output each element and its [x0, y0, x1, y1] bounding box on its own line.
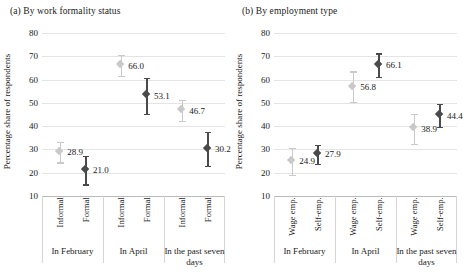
data-label: 21.0 — [93, 165, 109, 175]
panel-a-title: (a) By work formality status — [10, 6, 120, 16]
data-label: 27.9 — [325, 149, 341, 159]
marker-diamond — [373, 60, 382, 69]
error-bar-cap-upper — [57, 142, 64, 143]
marker-diamond — [409, 123, 418, 132]
error-bar-cap-upper — [179, 100, 186, 101]
group-label-1: In April — [103, 246, 164, 257]
y-tick-label-20: 20 — [29, 168, 38, 178]
error-bar-cap-upper — [437, 104, 444, 105]
y-tick-label-30: 30 — [261, 144, 270, 154]
panel-a-y-axis-label: Percentage share of respondents — [2, 30, 14, 193]
panel-a-x-axis: InformalFormalInformalFormalInformalForm… — [42, 196, 225, 274]
y-tick-label-50: 50 — [29, 98, 38, 108]
data-label: 56.8 — [360, 82, 376, 92]
figure-two-panel-error-bar-chart: (a) By work formality status Percentage … — [0, 0, 464, 280]
marker-diamond — [348, 81, 357, 90]
error-bar-cap-upper — [205, 132, 212, 133]
data-label: 38.9 — [421, 124, 437, 134]
y-tick-label-40: 40 — [29, 121, 38, 131]
y-tick-label-60: 60 — [29, 75, 38, 85]
group-label-0: In February — [274, 246, 335, 257]
panel-b-plot-area: 1020304050607080 24.927.956.866.138.944.… — [274, 33, 457, 196]
marker-diamond — [141, 90, 150, 99]
error-bar-cap-lower — [83, 184, 90, 185]
y-tick-label-70: 70 — [261, 51, 270, 61]
panel-b-title: (b) By employment type — [242, 6, 337, 16]
error-bar-cap-lower — [179, 121, 186, 122]
data-label: 46.7 — [189, 106, 205, 116]
data-label: 66.1 — [386, 60, 402, 70]
y-tick-label-70: 70 — [29, 51, 38, 61]
y-tick-label-80: 80 — [29, 28, 38, 38]
panel-b-series: 24.927.956.866.138.944.4 — [274, 33, 457, 196]
panel-a-axis-line — [42, 196, 225, 197]
marker-diamond — [116, 60, 125, 69]
panel-a: (a) By work formality status Percentage … — [0, 0, 232, 280]
data-label: 53.1 — [154, 91, 170, 101]
error-bar-cap-lower — [315, 164, 322, 165]
error-bar-cap-upper — [83, 156, 90, 157]
error-bar-cap-lower — [144, 114, 151, 115]
y-tick-label-30: 30 — [29, 144, 38, 154]
y-tick-label-50: 50 — [261, 98, 270, 108]
data-label: 66.0 — [128, 61, 144, 71]
group-label-2: In the past seven days — [396, 246, 457, 267]
y-tick-label-60: 60 — [261, 75, 270, 85]
error-bar-cap-lower — [350, 102, 357, 103]
group-label-0: In February — [42, 246, 103, 257]
error-bar-cap-lower — [437, 127, 444, 128]
marker-diamond — [202, 143, 211, 152]
error-bar-cap-upper — [411, 114, 418, 115]
panel-b: (b) By employment type Percentage share … — [232, 0, 464, 280]
error-bar-cap-upper — [350, 71, 357, 72]
data-label: 28.9 — [67, 147, 83, 157]
error-bar-cap-lower — [411, 144, 418, 145]
data-label: 24.9 — [299, 156, 315, 166]
panel-b-x-axis: Wage emp.Self-emp.Wage emp.Self-emp.Wage… — [274, 196, 457, 274]
marker-diamond — [177, 105, 186, 114]
data-label: 30.2 — [215, 144, 231, 154]
error-bar-cap-upper — [144, 78, 151, 79]
error-bar-cap-upper — [315, 145, 322, 146]
error-bar-cap-lower — [118, 76, 125, 77]
group-label-1: In April — [335, 246, 396, 257]
panel-b-axis-line — [274, 196, 457, 197]
marker-diamond — [80, 165, 89, 174]
marker-diamond — [434, 110, 443, 119]
group-label-2: In the past seven days — [164, 246, 225, 267]
marker-diamond — [55, 146, 64, 155]
error-bar-cap-upper — [289, 148, 296, 149]
error-bar-cap-lower — [289, 175, 296, 176]
panel-a-series: 28.921.066.053.146.730.2 — [42, 33, 225, 196]
marker-diamond — [287, 156, 296, 165]
panel-b-y-axis-label: Percentage share of respondents — [234, 30, 246, 193]
error-bar-cap-lower — [57, 162, 64, 163]
error-bar-cap-upper — [376, 53, 383, 54]
panel-a-plot-area: 1020304050607080 28.921.066.053.146.730.… — [42, 33, 225, 196]
data-label: 44.4 — [447, 111, 463, 121]
y-tick-label-80: 80 — [261, 28, 270, 38]
error-bar-cap-lower — [205, 166, 212, 167]
error-bar-cap-lower — [376, 77, 383, 78]
y-tick-label-40: 40 — [261, 121, 270, 131]
error-bar-cap-upper — [118, 55, 125, 56]
y-tick-label-20: 20 — [261, 168, 270, 178]
